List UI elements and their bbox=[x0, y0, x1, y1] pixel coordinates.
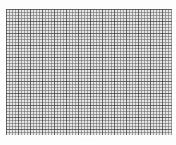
page-caption: · · · bbox=[0, 137, 176, 143]
graph-paper-grid bbox=[6, 9, 172, 135]
document-page: · · · bbox=[0, 0, 176, 145]
